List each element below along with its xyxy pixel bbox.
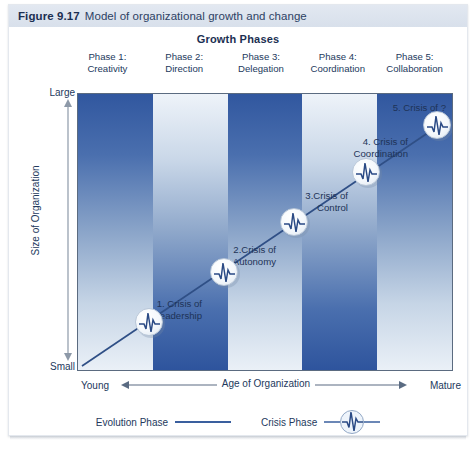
- phase-header-4: Phase 4: Coordination: [299, 51, 376, 85]
- figure-caption: Model of organizational growth and chang…: [85, 10, 307, 22]
- phase-header-5: Phase 5: Collaboration: [376, 51, 453, 85]
- crisis-zigzag-icon: [324, 409, 380, 435]
- crisis-marker-swatch: [324, 409, 380, 435]
- figure-container: Figure 9.17 Model of organizational grow…: [0, 0, 474, 449]
- plot-frame: 1. Crisis of Leadership 2.Crisis of Auto…: [77, 93, 453, 371]
- legend-label-crisis: Crisis Phase: [261, 417, 317, 428]
- crisis-marker-1[interactable]: [135, 308, 165, 338]
- phase-5-index: Phase 5:: [396, 51, 434, 62]
- crisis-marker-2[interactable]: [210, 258, 240, 288]
- y-axis-top-label: Large: [23, 87, 75, 98]
- chart-title: Growth Phases: [9, 33, 467, 45]
- phase-3-index: Phase 3:: [242, 51, 280, 62]
- x-axis-right-label: Mature: [411, 380, 467, 391]
- figure-number: Figure 9.17: [18, 10, 80, 22]
- evolution-line-swatch-icon: [175, 421, 231, 423]
- legend-item-evolution[interactable]: Evolution Phase: [96, 417, 231, 428]
- phase-header-3: Phase 3: Delegation: [223, 51, 300, 85]
- x-axis: Young Age of Organization Mature: [69, 377, 467, 393]
- crisis-zigzag-icon: [210, 258, 238, 286]
- figure-header: Figure 9.17 Model of organizational grow…: [9, 5, 467, 28]
- phase-1-index: Phase 1:: [88, 51, 126, 62]
- phase-header-1: Phase 1: Creativity: [69, 51, 146, 85]
- crisis-label-3-line1: 3.Crisis of: [305, 190, 348, 201]
- y-axis-arrow-icon: [61, 99, 75, 361]
- crisis-zigzag-icon: [352, 158, 380, 186]
- plot-area: 1. Crisis of Leadership 2.Crisis of Auto…: [77, 93, 453, 371]
- phase-4-index: Phase 4:: [319, 51, 357, 62]
- crisis-zigzag-icon: [135, 308, 163, 336]
- chart-legend: Evolution Phase Crisis Phase: [9, 409, 467, 435]
- crisis-marker-3[interactable]: [280, 208, 310, 238]
- phase-4-name: Coordination: [299, 63, 376, 75]
- x-axis-title-wrap: Age of Organization: [121, 378, 411, 389]
- crisis-label-2-line1: 2.Crisis of: [233, 244, 276, 255]
- x-axis-middle: Age of Organization: [121, 377, 411, 393]
- crisis-marker-4[interactable]: [352, 158, 382, 188]
- card-shadow: [10, 436, 466, 440]
- crisis-marker-5[interactable]: [423, 111, 453, 141]
- y-axis-title: Size of Organization: [30, 141, 41, 281]
- crisis-label-4: 4. Crisis of Coordination: [278, 136, 408, 160]
- phase-1-name: Creativity: [69, 63, 146, 75]
- phase-2-name: Direction: [146, 63, 223, 75]
- phase-header-2: Phase 2: Direction: [146, 51, 223, 85]
- crisis-zigzag-icon: [423, 111, 451, 139]
- legend-label-evolution: Evolution Phase: [96, 417, 168, 428]
- crisis-label-4-line1: 4. Crisis of: [363, 136, 408, 147]
- crisis-zigzag-icon: [280, 208, 308, 236]
- phase-3-name: Delegation: [223, 63, 300, 75]
- figure-card: Figure 9.17 Model of organizational grow…: [8, 4, 468, 436]
- x-axis-title: Age of Organization: [217, 378, 315, 389]
- x-axis-left-label: Young: [69, 380, 121, 391]
- y-axis-bottom-label: Small: [23, 361, 75, 372]
- crisis-label-4-line2: Coordination: [278, 148, 408, 160]
- phase-header-row: Phase 1: Creativity Phase 2: Direction P…: [69, 51, 453, 85]
- phase-5-name: Collaboration: [376, 63, 453, 75]
- legend-item-crisis[interactable]: Crisis Phase: [261, 409, 380, 435]
- phase-2-index: Phase 2:: [165, 51, 203, 62]
